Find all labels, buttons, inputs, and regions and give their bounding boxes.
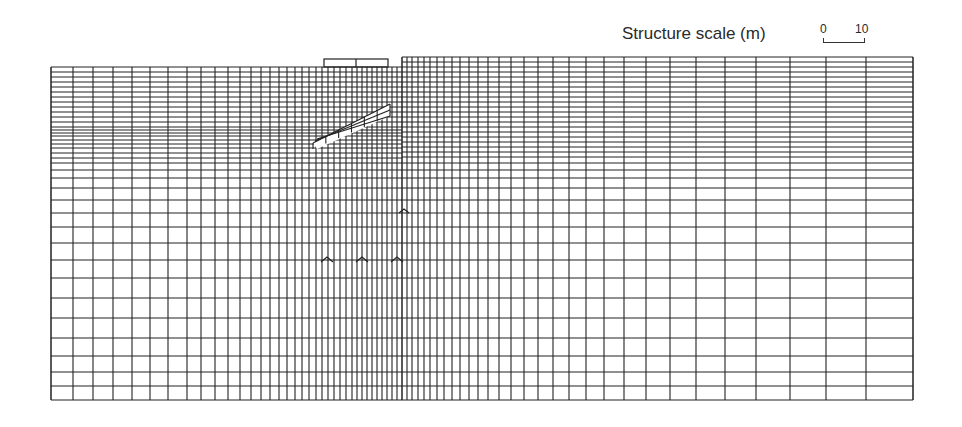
mesh-grid — [51, 57, 913, 400]
finite-element-mesh — [0, 0, 962, 427]
structure-elements — [313, 59, 409, 262]
